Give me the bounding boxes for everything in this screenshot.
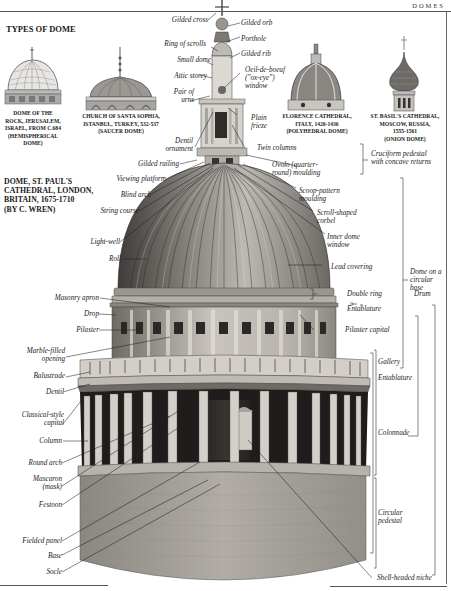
label-fielded-panel: Fielded panel <box>22 537 62 545</box>
label-socle: Socle <box>46 568 62 576</box>
main-dome <box>110 163 338 307</box>
label-line: Dentil <box>165 137 193 145</box>
label-line: with concave returns <box>371 158 431 166</box>
label-entablature-lower: Entablature <box>378 374 412 382</box>
label-round-arch: Round arch <box>29 459 62 467</box>
label-oeil-de-boeuf: Oeil-de-boeuf ("ox-eye") window <box>245 66 285 90</box>
label-gilded-railing: Gilded railing <box>138 160 179 168</box>
caption-line: ITALY, 1420-1436 <box>279 121 355 129</box>
label-drop: Drop <box>84 310 99 318</box>
label-line: urns <box>174 96 194 104</box>
label-line: Marble-filled <box>27 347 65 355</box>
main-title: DOME, ST. PAUL'S CATHEDRAL, LONDON, BRIT… <box>4 177 93 214</box>
label-line: frieze <box>251 122 267 130</box>
label-ring-of-scrolls: Ring of scrolls <box>164 40 206 48</box>
label-balustrade: Balustrade <box>33 372 65 380</box>
label-scoop-pattern: Scoop-pattern moulding <box>299 187 340 203</box>
label-twin-columns: Twin columns <box>257 144 297 152</box>
label-line: capital <box>22 419 64 427</box>
label-cruciform-pedestal: Cruciform pedestal with concave returns <box>371 150 431 166</box>
label-line: round) moulding <box>272 169 320 177</box>
label-gilded-orb: Gilded orb <box>241 19 272 27</box>
caption-dome-of-the-rock: DOME OF THE ROCK, JERUSALEM, ISRAEL, FRO… <box>0 110 66 148</box>
label-dentil-ornament: Dentil ornament <box>165 137 193 153</box>
label-line: Inner dome <box>327 233 360 241</box>
caption-florence-cathedral: FLORENCE CATHEDRAL, ITALY, 1420-1436 (PO… <box>279 113 355 136</box>
circular-pedestal <box>80 472 366 580</box>
caption-line: 1555-1561 <box>364 128 446 136</box>
label-line: Plain <box>251 114 267 122</box>
caption-line: ISRAEL, FROM C.684 <box>0 125 66 133</box>
caption-line: (SAUCER DOME) <box>76 128 166 136</box>
caption-line: (ONION DOME) <box>364 136 446 144</box>
label-line: corbel <box>317 217 357 225</box>
label-roll: Roll <box>109 255 121 263</box>
colonnade <box>78 389 370 476</box>
label-gilded-rib: Gilded rib <box>241 50 271 58</box>
upper-drum <box>112 307 336 363</box>
title-line: DOME, ST. PAUL'S <box>4 177 93 186</box>
santa-sophia-icon <box>86 47 156 110</box>
label-colonnade: Colonnade <box>378 429 410 437</box>
label-dentil: Dentil <box>46 388 64 396</box>
label-line: Pair of <box>174 88 194 96</box>
dome-of-the-rock-icon <box>5 47 61 104</box>
label-gallery: Gallery <box>378 358 400 366</box>
label-light-well: Light-well <box>90 238 120 246</box>
label-marble-filled-opening: Marble-filled opening <box>27 347 65 363</box>
caption-line: ST. BASIL'S CATHEDRAL, <box>364 113 446 121</box>
label-line: Circular <box>378 509 403 517</box>
caption-santa-sophia: CHURCH OF SANTA SOPHIA, ISTANBUL, TURKEY… <box>76 113 166 136</box>
caption-line: FLORENCE CATHEDRAL, <box>279 113 355 121</box>
label-blind-arch: Blind arch <box>121 191 151 199</box>
label-scroll-shaped-corbel: Scroll-shaped corbel <box>317 209 357 225</box>
caption-line: ROCK, JERUSALEM, <box>0 118 66 126</box>
caption-line: MOSCOW, RUSSIA, <box>364 121 446 129</box>
label-line: Dome on a <box>410 268 442 276</box>
label-line: Scoop-pattern <box>299 187 340 195</box>
label-line: Mascaron <box>33 475 62 483</box>
label-line: ornament <box>165 145 193 153</box>
label-small-dome: Small dome <box>177 56 211 64</box>
label-porthole: Porthole <box>241 35 266 43</box>
label-line: window <box>245 82 285 90</box>
caption-st-basils: ST. BASIL'S CATHEDRAL, MOSCOW, RUSSIA, 1… <box>364 113 446 143</box>
label-gilded-cross: Gilded cross <box>172 16 208 24</box>
label-inner-dome-window: Inner dome window <box>327 233 360 249</box>
florence-cathedral-icon <box>288 44 344 110</box>
caption-line: DOME OF THE <box>0 110 66 118</box>
label-lead-covering: Lead covering <box>331 263 372 271</box>
label-line: moulding <box>299 195 340 203</box>
label-string-course: String course <box>100 207 139 215</box>
label-line: Cruciform pedestal <box>371 150 431 158</box>
label-pilaster-capital: Pilaster capital <box>345 326 390 334</box>
label-line: Classical-style <box>22 411 64 419</box>
label-line: (mask) <box>33 483 62 491</box>
label-double-ring: Double ring <box>347 290 382 298</box>
label-dome-on-circular-base: Dome on a circular base <box>410 268 442 292</box>
label-line: Scroll-shaped <box>317 209 357 217</box>
label-base: Base <box>48 552 62 560</box>
label-plain-frieze: Plain frieze <box>251 114 267 130</box>
label-shell-headed-niche: Shell-headed niche <box>377 574 432 582</box>
label-festoon: Festoon <box>39 501 62 509</box>
lantern <box>197 0 247 166</box>
label-line: ("ox-eye") <box>245 74 285 82</box>
st-basils-icon <box>390 36 419 111</box>
caption-line: (POLYHEDRAL DOME) <box>279 128 355 136</box>
label-line: Oeil-de-boeuf <box>245 66 285 74</box>
label-column: Column <box>39 437 62 445</box>
label-viewing-platform: Viewing platform <box>116 175 166 183</box>
label-circular-pedestal: Circular pedestal <box>378 509 403 525</box>
label-pair-of-urns: Pair of urns <box>174 88 194 104</box>
label-entablature-upper: Entablature <box>347 305 381 313</box>
title-line: (BY C. WREN) <box>4 205 93 214</box>
label-masonry-apron: Masonry apron <box>55 294 99 302</box>
label-line: Ovolo (quarter- <box>272 161 320 169</box>
label-pilaster: Pilaster <box>76 326 99 334</box>
label-line: opening <box>27 355 65 363</box>
caption-line: ISTANBUL, TURKEY, 532-537 <box>76 121 166 129</box>
caption-line: (HEMISPHERICAL <box>0 133 66 141</box>
gallery-balustrade <box>78 355 370 392</box>
label-classical-capital: Classical-style capital <box>22 411 64 427</box>
